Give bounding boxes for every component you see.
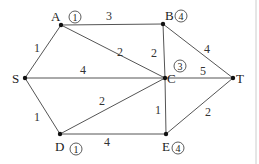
edge-D-C	[60, 78, 165, 134]
weight-E-T: 2	[205, 105, 211, 119]
weight-S-C: 4	[80, 63, 86, 77]
svg-text:4: 4	[179, 11, 184, 22]
node-S	[23, 76, 27, 80]
label-E: E	[162, 139, 170, 154]
weight-C-E: 1	[155, 103, 161, 117]
node-D	[58, 132, 62, 136]
badge-B: 4	[175, 10, 187, 22]
badge-E: 4	[172, 142, 184, 154]
edge-B-C	[163, 24, 165, 78]
weight-D-E: 4	[104, 135, 110, 149]
weight-B-T: 4	[204, 42, 210, 56]
edge-S-A	[25, 25, 61, 78]
label-S: S	[12, 71, 19, 86]
graph-svg: 1 3 2 4 2 4 5 1 2 4 1 2 A B S C T D E 1	[0, 0, 259, 164]
svg-text:3: 3	[178, 61, 183, 72]
badge-A: 1	[69, 11, 81, 23]
weight-S-A: 1	[34, 41, 40, 55]
svg-text:1: 1	[74, 144, 79, 155]
badge-D: 1	[70, 143, 82, 155]
label-D: D	[55, 139, 64, 154]
label-B: B	[165, 8, 174, 23]
label-A: A	[51, 9, 61, 24]
graph-diagram: 1 3 2 4 2 4 5 1 2 4 1 2 A B S C T D E 1	[0, 0, 259, 164]
label-C: C	[167, 71, 176, 86]
node-T	[231, 76, 235, 80]
svg-text:1: 1	[73, 12, 78, 23]
weight-D-C: 2	[99, 94, 105, 108]
weight-A-C: 2	[117, 45, 123, 59]
label-T: T	[236, 71, 244, 86]
edge-A-B	[61, 24, 163, 25]
weight-C-T: 5	[200, 64, 206, 78]
weight-A-B: 3	[106, 9, 112, 23]
edge-B-T	[163, 24, 233, 78]
weight-B-C: 2	[151, 46, 157, 60]
edge-C-E	[165, 78, 166, 134]
svg-text:4: 4	[176, 143, 181, 154]
badge-C: 3	[174, 60, 186, 72]
edge-A-C	[61, 25, 165, 78]
weight-S-D: 1	[34, 110, 40, 124]
node-E	[164, 132, 168, 136]
edge-S-D	[25, 78, 60, 134]
edge-E-T	[166, 78, 233, 134]
